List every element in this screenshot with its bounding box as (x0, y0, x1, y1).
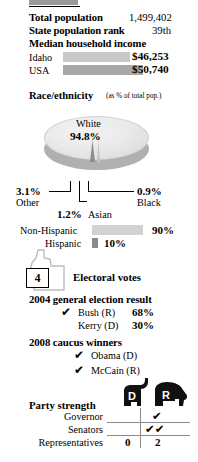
party-strength-governor-republican: ✔ (152, 409, 162, 423)
race-ethnicity-subheading: (as % of total pop.) (106, 92, 161, 100)
republican-elephant-icon: R (152, 377, 190, 407)
top-rule (29, 6, 80, 7)
pie-value-white: 94.8% (70, 130, 101, 142)
leader-line-asian-stem (79, 181, 80, 202)
leader-line-other (49, 191, 71, 192)
democrat-letter: D (128, 390, 136, 402)
top-cropped-bar (29, 0, 78, 5)
winner-check-icon-obama: ✔ (74, 348, 84, 362)
pie-label-other: Other (16, 197, 39, 208)
pie-value-asian: 1.2% (57, 208, 82, 220)
winner-check-icon-mccain: ✔ (74, 363, 84, 377)
republican-letter: R (162, 389, 170, 401)
pie-value-other: 3.1% (16, 185, 41, 197)
income-value-usa: $50,740 (132, 63, 169, 75)
leader-line-asian (79, 201, 87, 202)
election-2004-value-kerry: 30% (132, 319, 154, 331)
caucus-2008-winner-mccain: McCain (R) (91, 365, 140, 376)
hispanic-bar-hispanic (92, 238, 98, 248)
leader-line-other-stem (70, 181, 71, 192)
election-2004-candidate-kerry: Kerry (D) (78, 320, 118, 331)
total-population-value: 1,499,402 (129, 11, 172, 23)
pie-label-white: White (76, 118, 101, 129)
income-row-label-usa: USA (29, 65, 49, 76)
income-value-idaho: $46,253 (132, 50, 169, 62)
election-2004-candidate-bush: Bush (R) (78, 307, 115, 318)
caucus-2008-winner-obama: Obama (D) (91, 350, 137, 361)
hispanic-row-label-hispanic: Hispanic (45, 238, 81, 249)
party-strength-representatives-democrat: 0 (125, 436, 131, 448)
winner-check-icon-bush: ✔ (61, 305, 71, 319)
income-row-label-idaho: Idaho (29, 52, 52, 63)
party-strength-senators-republican: ✔✔ (145, 422, 164, 436)
pie-value-black: 0.9% (137, 185, 162, 197)
hispanic-value-non-hispanic: 90% (152, 224, 174, 236)
election-2004-value-bush: 68% (132, 306, 154, 318)
race-pie-chart: White 94.8% (40, 104, 158, 182)
party-strength-row-label-governor: Governor (5, 411, 103, 422)
party-strength-representatives-republican: 2 (155, 436, 161, 448)
hispanic-row-label-non-hispanic: Non-Hispanic (20, 225, 77, 236)
median-income-label: Median household income (29, 37, 146, 49)
race-ethnicity-heading: Race/ethnicity (29, 90, 93, 101)
population-rank-label: State population rank (29, 24, 125, 36)
income-bar-idaho (63, 52, 130, 62)
pie-label-black: Black (137, 197, 161, 208)
leader-line-black (88, 191, 134, 192)
idaho-state-factbox: Total population 1,499,402 State populat… (0, 0, 198, 462)
electoral-votes-label: Electoral votes (73, 271, 141, 283)
pie-label-asian: Asian (88, 209, 112, 220)
caucus-2008-heading: 2008 caucus winners (29, 336, 122, 348)
party-strength-row-label-senators: Senators (5, 424, 103, 435)
hispanic-value-hispanic: 10% (104, 237, 126, 249)
party-strength-heading: Party strength (29, 399, 96, 411)
hispanic-bar-non-hispanic (92, 225, 143, 235)
election-2004-heading: 2004 general election result (29, 293, 152, 305)
party-strength-column-divider (140, 408, 141, 448)
electoral-votes-count: 4 (26, 268, 49, 288)
party-strength-row-label-representatives: Representatives (5, 437, 103, 448)
population-rank-value: 39th (152, 24, 171, 36)
income-bar-usa (63, 65, 143, 75)
democrat-donkey-icon: D (120, 377, 152, 407)
total-population-label: Total population (29, 11, 103, 23)
